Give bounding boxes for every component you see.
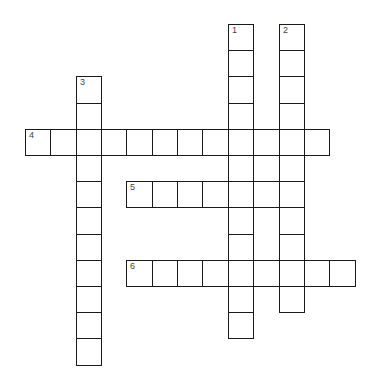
clue-number-1: 1 [232, 26, 237, 35]
crossword-cell[interactable] [126, 129, 153, 156]
crossword-cell[interactable] [76, 234, 102, 261]
crossword-cell[interactable] [76, 155, 102, 182]
crossword-cell[interactable] [279, 155, 305, 182]
crossword-cell[interactable]: 5 [126, 181, 153, 208]
crossword-cell[interactable] [253, 129, 280, 156]
crossword-cell[interactable] [76, 103, 102, 130]
crossword-cell[interactable] [304, 129, 330, 156]
crossword-cell[interactable] [228, 129, 254, 156]
crossword-cell[interactable] [177, 129, 203, 156]
crossword-cell[interactable] [76, 312, 102, 339]
crossword-cell[interactable] [76, 181, 102, 208]
crossword-cell[interactable] [228, 207, 254, 235]
crossword-cell[interactable] [101, 129, 127, 156]
crossword-cell[interactable] [253, 260, 280, 287]
crossword-cell[interactable] [228, 312, 254, 339]
crossword-cell[interactable] [228, 76, 254, 104]
crossword-cell[interactable] [279, 103, 305, 130]
crossword-cell[interactable] [76, 338, 102, 366]
crossword-grid: 123456 [0, 0, 372, 387]
crossword-cell[interactable] [228, 103, 254, 130]
crossword-cell[interactable] [202, 260, 229, 287]
crossword-cell[interactable] [228, 181, 254, 208]
clue-number-4: 4 [29, 131, 34, 140]
crossword-cell[interactable] [152, 181, 178, 208]
crossword-cell[interactable]: 2 [279, 24, 305, 51]
crossword-cell[interactable] [304, 260, 330, 287]
crossword-cell[interactable] [228, 286, 254, 313]
crossword-cell[interactable] [76, 207, 102, 235]
crossword-cell[interactable] [279, 50, 305, 77]
crossword-cell[interactable] [177, 260, 203, 287]
crossword-cell[interactable] [76, 260, 102, 287]
crossword-cell[interactable] [228, 155, 254, 182]
crossword-cell[interactable] [279, 129, 305, 156]
crossword-cell[interactable] [50, 129, 77, 156]
crossword-cell[interactable] [279, 234, 305, 261]
crossword-cell[interactable] [253, 181, 280, 208]
crossword-cell[interactable]: 3 [76, 76, 102, 104]
crossword-cell[interactable] [279, 207, 305, 235]
crossword-cell[interactable] [228, 234, 254, 261]
clue-number-3: 3 [80, 78, 85, 87]
crossword-cell[interactable] [202, 181, 229, 208]
crossword-cell[interactable]: 1 [228, 24, 254, 51]
clue-number-5: 5 [130, 183, 135, 192]
crossword-cell[interactable]: 6 [126, 260, 153, 287]
crossword-cell[interactable] [177, 181, 203, 208]
crossword-cell[interactable]: 4 [25, 129, 51, 156]
crossword-cell[interactable] [228, 50, 254, 77]
crossword-cell[interactable] [279, 181, 305, 208]
crossword-cell[interactable] [329, 260, 356, 287]
crossword-cell[interactable] [228, 260, 254, 287]
crossword-cell[interactable] [279, 286, 305, 313]
clue-number-2: 2 [283, 26, 288, 35]
crossword-cell[interactable] [152, 260, 178, 287]
crossword-cell[interactable] [76, 286, 102, 313]
crossword-cell[interactable] [152, 129, 178, 156]
crossword-cell[interactable] [279, 260, 305, 287]
clue-number-6: 6 [130, 262, 135, 271]
crossword-cell[interactable] [76, 129, 102, 156]
crossword-cell[interactable] [279, 76, 305, 104]
crossword-cell[interactable] [202, 129, 229, 156]
